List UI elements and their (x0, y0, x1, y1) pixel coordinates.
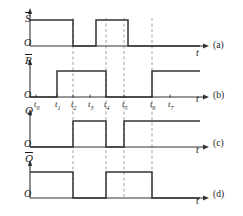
time-axis-arrow-(d) (203, 196, 209, 201)
waveform-d (30, 172, 200, 198)
signal-label-s-bar: S (25, 12, 31, 24)
time-tick-label-t3: t3 (88, 100, 93, 111)
signal-label-q-bar: Q (25, 152, 33, 164)
axis-label-t-a: t (196, 48, 199, 58)
overbar-wrap-d: Q (25, 152, 33, 164)
axis-label-t-b: t (196, 94, 199, 104)
signal-letter-b: R (25, 54, 32, 66)
axis-label-t-d: t (196, 196, 199, 206)
overbar-wrap-b: R (25, 54, 32, 66)
signal-letter-d: Q (25, 152, 33, 164)
time-axis-arrow-(b) (203, 95, 209, 100)
signal-letter-c: Q (25, 104, 33, 116)
panel-tag-d: (d) (213, 190, 224, 200)
timing-diagram-figure: S O t (a) R O t (b) t0t1t2t3t4t5t6t7 Q O… (0, 0, 243, 216)
time-tick-label-t0: t0 (34, 100, 39, 111)
time-tick-label-t5: t5 (122, 100, 127, 111)
time-tick-label-t6: t6 (150, 100, 155, 111)
signal-letter-a: S (25, 12, 31, 24)
origin-label-b: O (24, 90, 31, 100)
waveform-c (30, 121, 200, 147)
time-tick-label-t2: t2 (71, 100, 76, 111)
origin-label-a: O (24, 38, 31, 48)
waveform-a (30, 20, 200, 46)
axis-label-t-c: t (196, 145, 199, 155)
time-axis-arrow-(c) (203, 145, 209, 150)
overbar-wrap-a: S (25, 12, 31, 24)
panel-tag-c: (c) (213, 139, 224, 149)
origin-label-c: O (24, 139, 31, 149)
origin-label-d: O (24, 189, 31, 199)
waveform-b (30, 71, 200, 97)
signal-label-q: Q (25, 105, 33, 116)
time-axis-arrow-(a) (203, 44, 209, 49)
time-tick-label-t1: t1 (55, 100, 60, 111)
panel-tag-a: (a) (213, 41, 224, 51)
panel-tag-b: (b) (213, 91, 224, 101)
time-tick-label-t4: t4 (104, 100, 109, 111)
signal-label-r-bar: R (25, 54, 32, 66)
time-tick-label-t7: t7 (168, 100, 173, 111)
